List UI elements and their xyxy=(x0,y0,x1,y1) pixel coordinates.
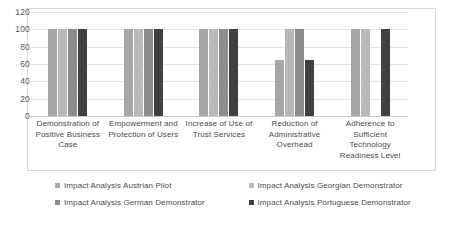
y-axis-tick-label: 80 xyxy=(0,43,30,51)
legend-swatch-icon xyxy=(249,183,254,188)
x-axis-category-label: Empowerment and Protection of Users xyxy=(106,119,182,161)
y-axis-tick-label: 60 xyxy=(0,60,30,68)
bar[interactable] xyxy=(229,29,238,116)
bar[interactable] xyxy=(351,29,360,116)
y-axis-tick-label: 100 xyxy=(0,25,30,33)
legend-label: Impact Analysis Austrian Pilot xyxy=(64,181,172,190)
legend-swatch-icon xyxy=(55,183,60,188)
legend-label: Impact Analysis Portuguese Demonstrator xyxy=(258,198,411,207)
bar-group xyxy=(30,12,106,116)
legend-item[interactable]: Impact Analysis Austrian Pilot xyxy=(55,178,243,193)
bar[interactable] xyxy=(134,29,143,116)
legend-label: Impact Analysis Georgian Demonstrator xyxy=(258,181,403,190)
bar[interactable] xyxy=(295,29,304,116)
legend-label: Impact Analysis German Demonstrator xyxy=(64,198,205,207)
bar[interactable] xyxy=(154,29,163,116)
x-axis: Demonstration of Positive Business CaseE… xyxy=(30,119,408,161)
x-axis-category-label: Increase of Use of Trust Services xyxy=(181,119,257,161)
legend-item[interactable]: Impact Analysis Georgian Demonstrator xyxy=(249,178,437,193)
bar[interactable] xyxy=(124,29,133,116)
legend-swatch-icon xyxy=(249,200,254,205)
x-axis-line xyxy=(30,116,408,117)
y-axis-tick-label: 40 xyxy=(0,77,30,85)
bar-group xyxy=(332,12,408,116)
y-axis: 120100806040200 xyxy=(0,12,30,116)
bar[interactable] xyxy=(381,29,390,116)
chart-legend: Impact Analysis Austrian PilotImpact Ana… xyxy=(27,178,436,212)
x-axis-category-label: Demonstration of Positive Business Case xyxy=(30,119,106,161)
bar[interactable] xyxy=(285,29,294,116)
bar[interactable] xyxy=(219,29,228,116)
x-axis-category-label: Reduction of Administrative Overhead xyxy=(257,119,333,161)
bar-group xyxy=(257,12,333,116)
x-axis-category-label: Adherence to Sufficient Technology Readi… xyxy=(332,119,408,161)
bar[interactable] xyxy=(209,29,218,116)
y-axis-tick-label: 20 xyxy=(0,95,30,103)
y-axis-tick-label: 0 xyxy=(0,112,30,120)
bar[interactable] xyxy=(305,60,314,116)
legend-item[interactable]: Impact Analysis Portuguese Demonstrator xyxy=(249,195,437,210)
bar[interactable] xyxy=(68,29,77,116)
bar-group xyxy=(181,12,257,116)
bar[interactable] xyxy=(361,29,370,116)
bars-layer xyxy=(30,12,408,116)
bar[interactable] xyxy=(78,29,87,116)
bar[interactable] xyxy=(58,29,67,116)
impact-analysis-bar-chart: 120100806040200 Demonstration of Positiv… xyxy=(0,0,451,226)
legend-swatch-icon xyxy=(55,200,60,205)
bar[interactable] xyxy=(199,29,208,116)
bar-group xyxy=(106,12,182,116)
y-axis-tick-label: 120 xyxy=(0,8,30,16)
bar[interactable] xyxy=(275,60,284,116)
bar[interactable] xyxy=(144,29,153,116)
legend-item[interactable]: Impact Analysis German Demonstrator xyxy=(55,195,243,210)
bar[interactable] xyxy=(48,29,57,116)
